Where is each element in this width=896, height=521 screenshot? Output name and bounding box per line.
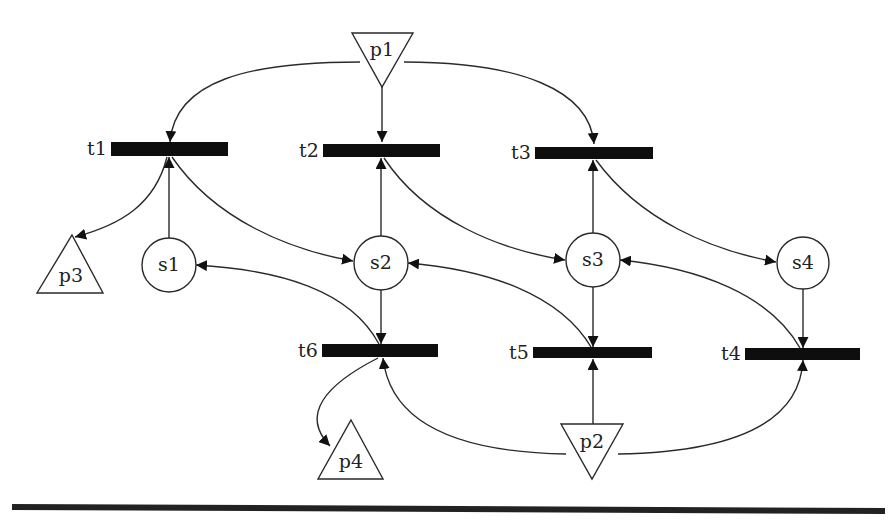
- transition-t5: t5: [509, 341, 652, 363]
- arc-t5-s2: [408, 263, 591, 347]
- place-label: s4: [792, 251, 814, 273]
- state-places: s1 s2 s3 s4: [142, 233, 829, 292]
- place-s1: s1: [142, 238, 196, 292]
- place-label: s1: [158, 253, 180, 275]
- transitions: t1 t2 t3 t6 t5 t4: [87, 137, 860, 364]
- arc-t1-p3: [75, 157, 167, 237]
- place-label: p3: [59, 264, 83, 286]
- place-p3: p3: [37, 235, 103, 293]
- transition-label: t2: [299, 139, 319, 161]
- place-s4: s4: [777, 237, 829, 289]
- place-label: s3: [582, 248, 604, 270]
- transition-label: t1: [87, 137, 107, 159]
- transition-t1: t1: [87, 137, 228, 159]
- place-s2: s2: [354, 236, 408, 290]
- arc-t1-s2: [172, 157, 353, 261]
- place-label: s2: [370, 251, 392, 273]
- transition-label: t6: [298, 339, 318, 361]
- transition-label: t4: [721, 342, 741, 364]
- transition-t4: t4: [721, 342, 860, 364]
- arc-p1-t1: [170, 62, 360, 142]
- place-p1: p1: [352, 33, 413, 87]
- place-s3: s3: [566, 233, 620, 287]
- arc-p1-t3: [404, 62, 594, 144]
- arc-t4-s3: [620, 260, 800, 348]
- transition-label: t5: [509, 341, 529, 363]
- arc-t2-s3: [384, 158, 565, 260]
- bottom-rule: [12, 504, 885, 514]
- place-label: p2: [580, 430, 604, 452]
- transition-label: t3: [511, 141, 531, 163]
- arc-t6-s1: [196, 265, 379, 344]
- transition-t3: t3: [511, 141, 653, 163]
- arc-p2-t6: [383, 358, 566, 454]
- place-p4: p4: [318, 420, 383, 479]
- place-label: p4: [339, 450, 363, 472]
- arc-t3-s4: [596, 160, 776, 262]
- petri-net-diagram: t1 t2 t3 t6 t5 t4 s1 s2: [0, 0, 896, 521]
- place-p2: p2: [561, 424, 623, 479]
- place-label: p1: [370, 38, 394, 60]
- arc-p2-t4: [618, 360, 803, 454]
- transition-t2: t2: [299, 139, 440, 161]
- transition-t6: t6: [298, 339, 438, 361]
